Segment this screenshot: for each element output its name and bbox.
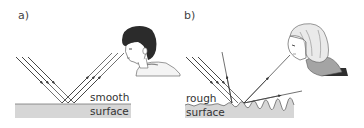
smooth-surface-label-line1: smooth <box>90 92 129 103</box>
smooth-surface-label-line2: surface <box>90 106 129 117</box>
reflection-diagram <box>0 0 364 128</box>
panel-a-label: a) <box>18 10 29 21</box>
rough-surface-label-line2: surface <box>186 107 225 118</box>
woman-observer <box>288 24 348 76</box>
incident-rays-a <box>16 57 74 103</box>
boy-observer <box>122 26 180 76</box>
panel-b-label: b) <box>184 10 195 21</box>
rough-surface-label-line1: rough <box>186 93 217 104</box>
scattered-rays-b <box>222 52 302 103</box>
